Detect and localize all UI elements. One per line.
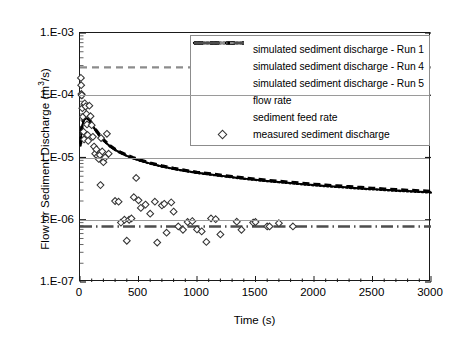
data-point-marker [97,182,104,189]
legend-label: measured sediment discharge [253,129,390,140]
gridline [80,158,429,159]
chart-legend: simulated sediment discharge - Run 1simu… [190,35,430,146]
data-point-marker [217,231,224,238]
chart-figure: Flow or Sediment Discharge (m3/s) 1.E-03… [0,0,455,342]
data-point-marker [147,210,154,217]
legend-item: simulated sediment discharge - Run 4 [191,58,429,75]
legend-item: sediment feed rate [191,109,429,126]
x-tick-label: 2500 [359,286,385,298]
data-point-marker [170,208,177,215]
x-tick-label: 1000 [183,286,209,298]
data-point-marker [104,130,111,137]
data-point-marker [168,199,175,206]
legend-key-dash-dot [191,36,247,50]
data-point-marker [154,239,161,246]
data-point-marker [133,175,140,182]
legend-label: flow rate [253,95,291,106]
legend-key [191,58,253,75]
legend-label: simulated sediment discharge - Run 4 [253,61,424,72]
legend-key [191,126,253,143]
data-point-marker [123,237,130,244]
legend-item: simulated sediment discharge - Run 5 [191,75,429,92]
y-tick-label: 1.E-06 [22,213,74,225]
data-point-marker [163,229,170,236]
gridline [80,95,429,96]
legend-label: simulated sediment discharge - Run 5 [253,78,424,89]
legend-label: sediment feed rate [253,112,337,123]
x-tick-label: 1500 [242,286,268,298]
diamond-icon [217,130,227,140]
y-tick-label: 1.E-04 [22,88,74,100]
legend-key [191,75,253,92]
x-tick-label: 2000 [300,286,326,298]
y-axis-tick-labels: 1.E-031.E-041.E-051.E-061.E-07 [18,0,74,342]
data-point-marker [151,198,158,205]
data-point-marker [78,74,85,81]
y-tick-label: 1.E-07 [22,275,74,287]
y-tick-label: 1.E-03 [22,26,74,38]
data-point-marker [290,223,297,230]
y-tick-label: 1.E-05 [22,151,74,163]
data-point-marker [78,82,85,89]
legend-label: simulated sediment discharge - Run 1 [253,44,424,55]
x-axis-title: Time (s) [79,314,430,326]
legend-item: measured sediment discharge [191,126,429,143]
x-tick-label: 3000 [417,286,443,298]
legend-key [191,109,253,126]
plot-area: simulated sediment discharge - Run 1simu… [79,32,430,281]
data-point-marker [203,239,210,246]
x-tick-label: 500 [128,286,147,298]
x-tick-label: 0 [76,286,82,298]
gridline [80,220,429,221]
